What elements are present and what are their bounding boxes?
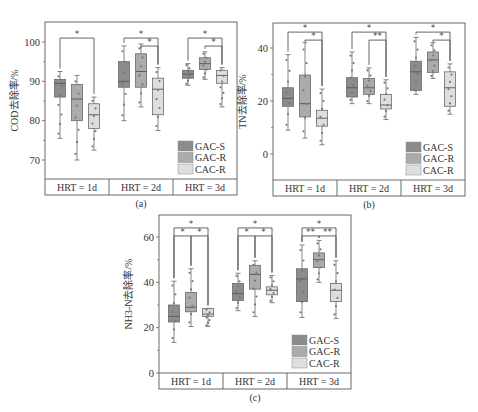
legend-label: GAC-S [423, 142, 453, 153]
significance-marker: * [180, 227, 185, 237]
y-tick-label: 20 [144, 322, 155, 333]
legend-swatch [406, 142, 421, 152]
legend-swatch [292, 358, 307, 368]
category-label: HRT = 3d [185, 182, 225, 193]
category-label: HRT = 1d [57, 182, 97, 193]
y-tick-label: 100 [24, 37, 40, 48]
legend-swatch [292, 335, 307, 345]
box-gac-s-0 [55, 72, 66, 139]
box-cac-r-1 [153, 68, 164, 131]
category-label: HRT = 2d [235, 376, 275, 387]
significance-marker: * [367, 23, 372, 33]
box-gac-r-1 [250, 261, 261, 317]
box-gac-r-1 [364, 68, 375, 104]
panel-caption: (c) [249, 392, 260, 404]
legend-label: CAC-R [423, 165, 454, 176]
y-axis-label: TN去除率/% [236, 74, 248, 128]
legend-label: GAC-S [309, 335, 339, 346]
panel-b-tn-removal: 02040TN去除率/%HRT = 1dHRT = 2dHRT = 3d(b)*… [236, 23, 465, 211]
box-gac-s-2 [411, 37, 422, 94]
significance-marker: * [147, 37, 152, 47]
box-gac-s-0 [283, 55, 294, 131]
box-gac-s-2 [183, 64, 194, 86]
y-axis-label: COD去除率/% [8, 69, 20, 131]
legend-label: GAC-S [195, 141, 225, 152]
legend-swatch [406, 165, 421, 175]
box-gac-s-2 [297, 245, 308, 318]
significance-bracket [369, 40, 386, 77]
y-axis-label: NH3-N去除率/% [122, 258, 134, 329]
figure-box-plots: 708090100COD去除率/%HRT = 1dHRT = 2dHRT = 3… [0, 0, 478, 412]
significance-marker: * [75, 29, 80, 39]
legend-swatch [178, 164, 193, 174]
box-cac-r-2 [445, 64, 456, 114]
panel-a-cod-removal: 708090100COD去除率/%HRT = 1dHRT = 2dHRT = 3… [8, 22, 237, 210]
legend-swatch [178, 141, 193, 151]
box-gac-r-0 [72, 75, 83, 160]
significance-marker: * [197, 227, 202, 237]
box-cac-r-2 [217, 68, 228, 107]
significance-marker: ** [373, 31, 383, 41]
category-label: HRT = 1d [171, 376, 211, 387]
legend-label: GAC-R [423, 153, 454, 164]
category-label: HRT = 3d [413, 183, 453, 194]
box-cac-r-1 [267, 276, 278, 303]
significance-marker: * [189, 219, 194, 229]
significance-marker: * [261, 227, 266, 237]
legend-swatch [406, 154, 421, 164]
box-gac-s-1 [347, 52, 358, 104]
box-gac-s-1 [119, 46, 130, 121]
box-cac-r-0 [203, 308, 214, 326]
significance-marker: ** [323, 227, 333, 237]
box-cac-r-0 [317, 89, 328, 145]
box-gac-r-2 [314, 240, 325, 282]
panel-caption: (b) [363, 199, 375, 211]
significance-marker: * [317, 219, 322, 229]
y-tick-label: 0 [149, 368, 154, 379]
box-gac-r-0 [186, 269, 197, 327]
legend-label: CAC-R [195, 164, 226, 175]
significance-marker: * [211, 37, 216, 47]
legend-label: GAC-R [309, 346, 340, 357]
category-label: HRT = 3d [299, 376, 339, 387]
legend-swatch [178, 153, 193, 163]
box-gac-r-1 [136, 44, 147, 107]
panel-caption: (a) [135, 198, 146, 210]
significance-marker: * [303, 23, 308, 33]
box-gac-s-1 [233, 273, 244, 310]
y-tick-label: 70 [30, 155, 41, 166]
category-label: HRT = 2d [121, 182, 161, 193]
significance-marker: * [244, 227, 249, 237]
box-gac-r-2 [200, 52, 211, 80]
y-tick-label: 40 [144, 277, 155, 288]
significance-marker: * [203, 29, 208, 39]
box-gac-s-0 [169, 281, 180, 342]
significance-marker: * [311, 31, 316, 41]
box-gac-r-2 [428, 43, 439, 79]
significance-bracket [174, 236, 191, 278]
legend-label: CAC-R [309, 358, 340, 369]
box-cac-r-0 [89, 97, 100, 150]
y-tick-label: 20 [258, 96, 269, 107]
significance-marker: ** [306, 227, 316, 237]
box-gac-r-0 [300, 43, 311, 138]
significance-marker: * [139, 29, 144, 39]
y-tick-label: 90 [30, 76, 41, 87]
significance-marker: * [439, 31, 444, 41]
box-cac-r-1 [381, 80, 392, 120]
legend-label: GAC-R [195, 152, 226, 163]
y-tick-label: 60 [144, 232, 155, 243]
panel-c-nh3n-removal: 0204060NH3-N去除率/%HRT = 1dHRT = 2dHRT = 3… [122, 215, 351, 404]
y-tick-label: 0 [263, 149, 268, 160]
category-label: HRT = 2d [349, 183, 389, 194]
category-label: HRT = 1d [285, 183, 325, 194]
significance-marker: * [431, 23, 436, 33]
significance-marker: * [253, 219, 258, 229]
y-tick-label: 80 [30, 115, 41, 126]
legend-swatch [292, 347, 307, 357]
y-tick-label: 40 [258, 43, 269, 54]
box-cac-r-2 [331, 261, 342, 319]
